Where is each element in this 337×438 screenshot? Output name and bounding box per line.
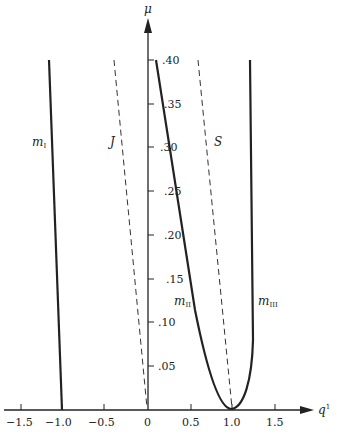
- label-S: S: [214, 135, 222, 149]
- x-axis-arrow-icon: [300, 406, 314, 414]
- label-m-II: mII: [174, 294, 191, 309]
- y-axis-label: μ: [144, 2, 152, 16]
- svg-text:−0.5: −0.5: [88, 416, 115, 429]
- curve-m-I: [49, 60, 62, 410]
- svg-text:1.0: 1.0: [223, 416, 241, 429]
- svg-text:−1.0: −1.0: [45, 416, 72, 429]
- svg-text:.10: .10: [158, 316, 176, 329]
- y-ticks: [148, 60, 154, 366]
- label-m-I: mI: [32, 135, 46, 150]
- svg-text:.20: .20: [164, 229, 182, 242]
- svg-text:.25: .25: [164, 185, 182, 198]
- label-J: J: [107, 135, 116, 149]
- chart: q1 μ −1.5 −1.0 −0.5 0 0.5 1.0 1.5 .05 .1…: [0, 0, 337, 438]
- curve-S-dashed: [198, 60, 232, 408]
- svg-text:1.5: 1.5: [266, 416, 284, 429]
- svg-text:0: 0: [144, 416, 151, 429]
- svg-text:.40: .40: [162, 54, 180, 67]
- x-tick-labels: −1.5 −1.0 −0.5 0 0.5 1.0 1.5: [6, 416, 284, 429]
- y-axis-arrow-icon: [144, 18, 152, 33]
- svg-text:.35: .35: [164, 98, 182, 111]
- label-m-III: mIII: [258, 294, 278, 309]
- svg-text:0.5: 0.5: [182, 416, 200, 429]
- curve-J-dashed: [114, 60, 147, 408]
- svg-text:.05: .05: [158, 360, 176, 373]
- x-axis-label: q1: [318, 403, 330, 417]
- svg-text:.15: .15: [166, 273, 184, 286]
- svg-text:−1.5: −1.5: [6, 416, 33, 429]
